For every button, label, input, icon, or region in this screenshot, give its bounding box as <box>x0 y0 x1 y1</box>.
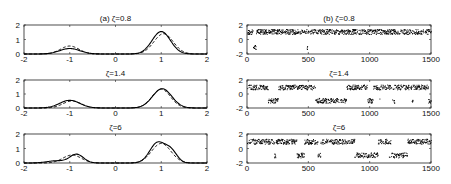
subplot-title: ζ=6 <box>333 123 346 132</box>
subplot-title: ζ=6 <box>109 123 122 132</box>
x-tick-label: 1 <box>159 55 164 64</box>
x-tick-label: 500 <box>302 55 316 64</box>
x-tick-label: 1500 <box>422 109 440 118</box>
axes-box <box>247 134 431 163</box>
y-tick-label: 0 <box>16 104 21 113</box>
axes-box <box>24 25 207 54</box>
x-tick-label: 1500 <box>422 55 440 64</box>
y-tick-label: -2 <box>236 104 244 113</box>
axes-box <box>247 80 431 108</box>
x-tick-label: 0 <box>113 164 118 173</box>
x-tick-label: -1 <box>66 55 74 64</box>
x-tick-label: -1 <box>66 109 74 118</box>
y-tick-label: 2 <box>239 21 244 30</box>
subplot-title: ζ=1.4 <box>106 69 126 78</box>
y-tick-label: 0 <box>16 159 21 168</box>
x-tick-label: 1 <box>159 164 164 173</box>
y-tick-label: 2 <box>16 76 21 85</box>
x-tick-label: 2 <box>205 164 210 173</box>
y-tick-label: 2 <box>16 21 21 30</box>
y-tick-label: -2 <box>236 50 244 59</box>
y-tick-label: 1 <box>16 90 21 99</box>
y-tick-label: 0 <box>239 145 244 154</box>
x-tick-label: 1500 <box>422 164 440 173</box>
x-tick-label: 0 <box>245 55 250 64</box>
x-tick-label: 2 <box>205 109 210 118</box>
subplot-a-3: ζ=6-2-1012012 <box>16 123 210 173</box>
x-tick-label: 0 <box>245 109 250 118</box>
y-tick-label: 0 <box>239 90 244 99</box>
subplot-a-1: (a) ζ=0.8-2-1012012 <box>16 14 210 64</box>
x-tick-label: -1 <box>66 164 74 173</box>
subplot-a-2: ζ=1.4-2-1012012 <box>16 69 210 118</box>
subplot-title: (b) ζ=0.8 <box>323 14 355 23</box>
subplot-title: ζ=1.4 <box>329 69 349 78</box>
figure: (a) ζ=0.8-2-1012012ζ=1.4-2-1012012ζ=6-2-… <box>0 0 451 184</box>
y-tick-label: -2 <box>236 159 244 168</box>
x-tick-label: 1000 <box>361 55 379 64</box>
x-tick-label: -2 <box>20 109 28 118</box>
x-tick-label: -2 <box>20 164 28 173</box>
y-tick-label: 0 <box>239 36 244 45</box>
subplot-b-3: ζ=6050010001500-202 <box>236 123 441 173</box>
x-tick-label: 2 <box>205 55 210 64</box>
subplot-b-1: (b) ζ=0.8050010001500-202 <box>236 14 441 64</box>
y-tick-label: 0 <box>16 50 21 59</box>
x-tick-label: 0 <box>245 164 250 173</box>
y-tick-label: 1 <box>16 145 21 154</box>
x-tick-label: 1000 <box>361 109 379 118</box>
x-tick-label: 1000 <box>361 164 379 173</box>
x-tick-label: 0 <box>113 55 118 64</box>
subplot-title: (a) ζ=0.8 <box>100 14 132 23</box>
x-tick-label: 500 <box>302 164 316 173</box>
y-tick-label: 1 <box>16 36 21 45</box>
x-tick-label: 500 <box>302 109 316 118</box>
x-tick-label: -2 <box>20 55 28 64</box>
y-tick-label: 2 <box>239 76 244 85</box>
subplot-b-2: ζ=1.4050010001500-202 <box>236 69 441 118</box>
y-tick-label: 2 <box>239 130 244 139</box>
y-tick-label: 2 <box>16 130 21 139</box>
x-tick-label: 1 <box>159 109 164 118</box>
x-tick-label: 0 <box>113 109 118 118</box>
